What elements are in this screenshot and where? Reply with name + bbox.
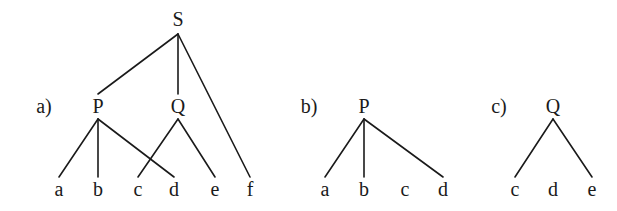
node-a-e: e — [211, 178, 220, 200]
edge-b-P-d — [364, 119, 443, 177]
node-c-e: e — [588, 178, 597, 200]
tree-diagram-figure: a)b)c)SPQabcdefPabcdQcde — [0, 0, 617, 211]
edge-c-Q-e — [553, 119, 592, 177]
node-b-b: b — [359, 178, 369, 200]
tree-diagram-svg: a)b)c)SPQabcdefPabcdQcde — [0, 0, 617, 211]
labels-layer: a)b)c)SPQabcdefPabcdQcde — [36, 8, 596, 200]
node-c-d: d — [548, 178, 558, 200]
node-a-S: S — [172, 8, 183, 30]
node-b-P: P — [358, 95, 369, 117]
node-c-Q: Q — [546, 95, 561, 117]
edge-a-P-d — [98, 119, 174, 177]
node-a-P: P — [92, 95, 103, 117]
panel-label: a) — [36, 95, 52, 118]
edge-c-Q-c — [515, 119, 553, 177]
edge-a-P-a — [59, 119, 98, 177]
panel-label: b) — [301, 95, 318, 118]
node-b-d: d — [438, 178, 448, 200]
node-b-a: a — [321, 178, 330, 200]
node-a-d: d — [169, 178, 179, 200]
node-a-c: c — [134, 178, 143, 200]
node-a-a: a — [55, 178, 64, 200]
edges-layer — [59, 34, 592, 177]
edge-b-P-a — [325, 119, 364, 177]
edge-a-S-P — [98, 34, 178, 94]
node-c-c: c — [511, 178, 520, 200]
edge-a-Q-e — [178, 119, 215, 177]
node-a-Q: Q — [171, 95, 186, 117]
node-b-c: c — [401, 178, 410, 200]
edge-a-Q-c — [138, 119, 178, 177]
node-a-f: f — [247, 178, 254, 200]
node-a-b: b — [93, 178, 103, 200]
edge-a-S-f — [178, 34, 250, 177]
panel-label: c) — [491, 95, 507, 118]
